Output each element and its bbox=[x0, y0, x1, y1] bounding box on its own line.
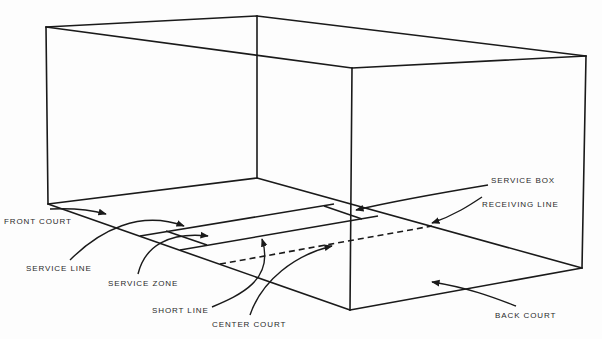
label-receiving-line: RECEIVING LINE bbox=[482, 201, 559, 209]
label-back-court: BACK COURT bbox=[495, 312, 556, 320]
short-line bbox=[180, 216, 378, 250]
label-service-zone: SERVICE ZONE bbox=[108, 280, 178, 288]
label-service-box: SERVICE BOX bbox=[491, 177, 555, 185]
court-diagram: FRONT COURT SERVICE LINE SERVICE ZONE SH… bbox=[0, 0, 602, 339]
label-center-court: CENTER COURT bbox=[212, 321, 286, 329]
label-leaders bbox=[50, 185, 516, 315]
service-box-divider-right bbox=[324, 206, 362, 219]
label-service-line: SERVICE LINE bbox=[26, 265, 92, 273]
service-line bbox=[140, 204, 334, 236]
court-floor-lines bbox=[140, 204, 432, 264]
label-front-court: FRONT COURT bbox=[4, 218, 72, 226]
receiving-line bbox=[220, 226, 432, 264]
court-box-edges bbox=[46, 16, 586, 310]
court-drawing bbox=[0, 0, 602, 339]
label-short-line: SHORT LINE bbox=[152, 307, 209, 315]
